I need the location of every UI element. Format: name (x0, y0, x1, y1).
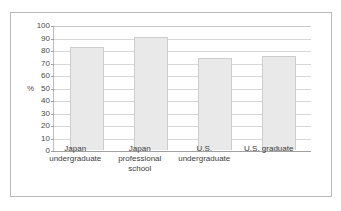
ytick-mark-30 (51, 114, 54, 115)
x-label-japan-undergraduate: Japan undergraduate (43, 141, 108, 174)
ytick-mark-40 (51, 101, 54, 102)
x-axis-labels: Japan undergraduate Japan professional s… (43, 141, 301, 174)
bar-slot-1 (55, 26, 119, 150)
bar-slot-3 (183, 26, 247, 150)
bar-series (55, 26, 311, 150)
ytick-label-70: 70 (41, 60, 50, 68)
ytick-mark-90 (51, 39, 54, 40)
ytick-label-40: 40 (41, 97, 50, 105)
bar-japan-undergraduate[interactable] (70, 47, 103, 150)
ytick-label-20: 20 (41, 122, 50, 130)
bar-slot-4 (247, 26, 311, 150)
bar-japan-professional-school[interactable] (134, 37, 167, 150)
bar-us-undergraduate[interactable] (198, 58, 231, 150)
ytick-mark-10 (51, 139, 54, 140)
ytick-mark-80 (51, 51, 54, 52)
ytick-label-30: 30 (41, 110, 50, 118)
ytick-label-90: 90 (41, 35, 50, 43)
plot-area: 100 90 80 70 60 50 (53, 26, 311, 152)
ytick-label-80: 80 (41, 47, 50, 55)
ytick-mark-100 (51, 26, 54, 27)
bar-us-graduate[interactable] (262, 56, 295, 150)
bar-slot-2 (119, 26, 183, 150)
x-label-us-graduate: U.S. graduate (237, 141, 302, 174)
ytick-label-60: 60 (41, 72, 50, 80)
plot-wrapper: 100 90 80 70 60 50 (53, 26, 311, 152)
x-label-us-undergraduate: U.S. undergraduate (172, 141, 237, 174)
ytick-mark-60 (51, 76, 54, 77)
y-axis-unit-label: % (27, 85, 34, 93)
x-label-japan-professional-school: Japan professional school (108, 141, 173, 174)
ytick-mark-70 (51, 64, 54, 65)
ytick-label-50: 50 (41, 85, 50, 93)
ytick-label-100: 100 (37, 22, 50, 30)
ytick-mark-50 (51, 89, 54, 90)
ytick-mark-20 (51, 126, 54, 127)
